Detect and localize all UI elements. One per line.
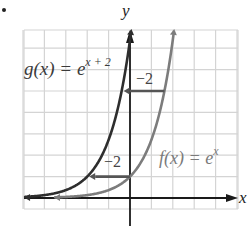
f-function-label: f(x) = ex [159, 149, 218, 167]
y-axis-label: y [122, 2, 130, 19]
exponential-graph [0, 0, 250, 231]
shift-label-bottom: −2 [104, 154, 121, 170]
x-axis-label: x [239, 189, 247, 206]
shift-label-top: −2 [136, 71, 153, 87]
g-function-label: g(x) = ex + 2 [24, 59, 111, 78]
